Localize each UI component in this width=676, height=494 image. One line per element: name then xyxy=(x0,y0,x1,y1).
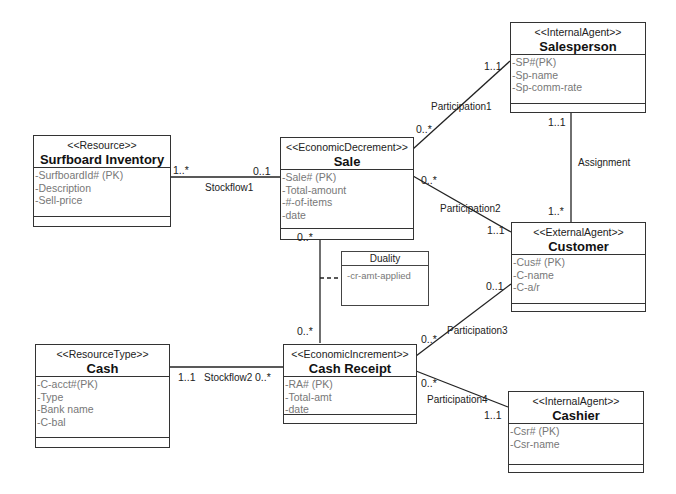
multiplicity: 0..* xyxy=(421,378,437,389)
attribute-list: -C-acct#(PK) -Type -Bank name -C-bal xyxy=(36,377,169,438)
attribute-list: -RA# (PK) -Total-amt -date xyxy=(284,377,416,415)
class-header: <<EconomicIncrement>> Cash Receipt xyxy=(284,345,416,377)
class-name: Customer xyxy=(512,239,645,254)
attribute: -C-name xyxy=(513,269,645,282)
attribute: -Cus# (PK) xyxy=(513,256,645,269)
attribute-list: -SP#(PK) -Sp-name -Sp-comm-rate xyxy=(511,55,645,104)
class-name: Cash Receipt xyxy=(284,361,416,376)
multiplicity: 1..* xyxy=(173,165,189,176)
attribute: -Sale# (PK) xyxy=(282,171,413,184)
multiplicity: 1..1 xyxy=(178,372,196,383)
multiplicity: 0..* xyxy=(416,124,432,135)
multiplicity: 1..* xyxy=(548,206,564,217)
stereotype: <<ResourceType>> xyxy=(36,348,169,361)
class-customer[interactable]: <<ExternalAgent>> Customer -Cus# (PK) -C… xyxy=(511,222,646,312)
attribute: -SurfboardId# (PK) xyxy=(35,169,170,182)
class-sale[interactable]: <<EconomicDecrement>> Sale -Sale# (PK) -… xyxy=(280,137,414,240)
attribute: -Total-amt xyxy=(285,391,416,404)
class-salesperson[interactable]: <<InternalAgent>> Salesperson -SP#(PK) -… xyxy=(510,22,646,113)
attribute-list: -Csr# (PK) -Csr-name xyxy=(509,424,643,465)
association-label-participation4: Participation4 xyxy=(427,394,488,405)
multiplicity: 0..1 xyxy=(486,281,504,292)
association-label-participation2: Participation2 xyxy=(440,203,501,214)
stereotype: <<InternalAgent>> xyxy=(511,26,645,39)
class-header: <<ExternalAgent>> Customer xyxy=(512,223,645,255)
attribute: -Description xyxy=(35,182,170,195)
class-name: Cash xyxy=(36,361,169,376)
stereotype: <<EconomicDecrement>> xyxy=(281,141,413,154)
attribute: -C-a/r xyxy=(513,281,645,294)
attribute: -Sell-price xyxy=(35,194,170,207)
attribute: -Type xyxy=(37,391,169,404)
attribute: -Sp-comm-rate xyxy=(512,81,645,94)
stereotype: <<EconomicIncrement>> xyxy=(284,348,416,361)
stereotype: <<ExternalAgent>> xyxy=(512,226,645,239)
attribute: -Total-amount xyxy=(282,184,413,197)
attribute-list: -SurfboardId# (PK) -Description -Sell-pr… xyxy=(34,168,170,217)
class-surfboard-inventory[interactable]: <<Resource>> Surfboard Inventory -Surfbo… xyxy=(33,135,171,227)
attribute: -date xyxy=(282,209,413,222)
multiplicity: 0..* xyxy=(297,326,313,337)
attribute: -Sp-name xyxy=(512,69,645,82)
class-name: Sale xyxy=(281,154,413,169)
multiplicity: 1..1 xyxy=(548,117,566,128)
class-header: <<Resource>> Surfboard Inventory xyxy=(34,136,170,168)
association-label-assignment: Assignment xyxy=(578,157,630,168)
class-name: Cashier xyxy=(509,408,643,423)
attribute-list: -Cus# (PK) -C-name -C-a/r xyxy=(512,255,645,304)
stereotype: <<Resource>> xyxy=(34,139,170,152)
class-name: Surfboard Inventory xyxy=(34,152,170,167)
class-header: <<EconomicDecrement>> Sale xyxy=(281,138,413,170)
association-label-stockflow1: Stockflow1 xyxy=(205,182,253,193)
attribute: -Csr# (PK) xyxy=(510,425,643,438)
class-header: <<InternalAgent>> Salesperson xyxy=(511,23,645,55)
attribute: -Bank name xyxy=(37,403,169,416)
class-cash-receipt[interactable]: <<EconomicIncrement>> Cash Receipt -RA# … xyxy=(283,344,417,424)
class-header: <<ResourceType>> Cash xyxy=(36,345,169,377)
multiplicity: 1..1 xyxy=(487,225,505,236)
multiplicity: 0..* xyxy=(255,372,271,383)
association-label-stockflow2: Stockflow2 xyxy=(204,372,252,383)
class-cashier[interactable]: <<InternalAgent>> Cashier -Csr# (PK) -Cs… xyxy=(508,391,644,473)
association-class-duality[interactable]: Duality -cr-amt-applied xyxy=(341,251,429,306)
multiplicity: 0..* xyxy=(421,334,437,345)
association-label-participation1: Participation1 xyxy=(431,101,492,112)
multiplicity: 0..* xyxy=(297,232,313,243)
attribute: -C-acct#(PK) xyxy=(37,378,169,391)
association-class-name: Duality xyxy=(342,252,428,266)
multiplicity: 1..1 xyxy=(484,410,502,421)
attribute-list: -Sale# (PK) -Total-amount -#-of-items -d… xyxy=(281,170,413,229)
class-cash[interactable]: <<ResourceType>> Cash -C-acct#(PK) -Type… xyxy=(35,344,170,448)
attribute: -C-bal xyxy=(37,416,169,429)
participation3-line xyxy=(416,284,511,356)
attribute: -SP#(PK) xyxy=(512,56,645,69)
attribute: -RA# (PK) xyxy=(285,378,416,391)
class-name: Salesperson xyxy=(511,39,645,54)
multiplicity: 0..1 xyxy=(253,166,271,177)
attribute: -#-of-items xyxy=(282,196,413,209)
class-header: <<InternalAgent>> Cashier xyxy=(509,392,643,424)
association-label-participation3: Participation3 xyxy=(447,325,508,336)
multiplicity: 1..1 xyxy=(484,61,502,72)
attribute: -cr-amt-applied xyxy=(342,266,428,281)
multiplicity: 0..* xyxy=(421,175,437,186)
attribute: -Csr-name xyxy=(510,438,643,451)
stereotype: <<InternalAgent>> xyxy=(509,395,643,408)
attribute: -date xyxy=(285,403,416,416)
